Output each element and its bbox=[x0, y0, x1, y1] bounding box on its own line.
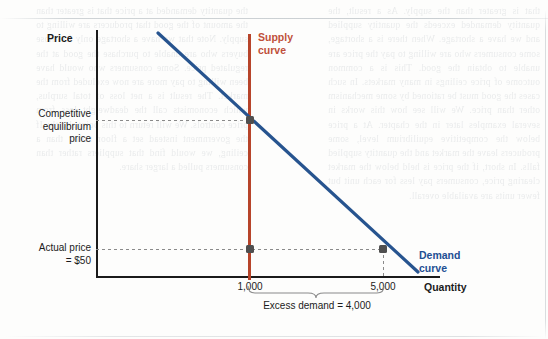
y-axis-title: Price bbox=[47, 32, 73, 44]
demand-curve-label: Demand curve bbox=[419, 249, 460, 274]
competitive-equilibrium-price-label: Competitive equilibrium price bbox=[0, 108, 91, 146]
point-actual-price-supply bbox=[246, 245, 254, 253]
actual-price-label: Actual price = $50 bbox=[0, 242, 91, 267]
y-axis-line bbox=[96, 30, 98, 278]
point-actual-price-demand bbox=[379, 245, 387, 253]
supply-demand-chart: Price Quantity Competitive equilibrium p… bbox=[0, 0, 548, 339]
scanned-textbook-page: that is greater than the supply. As a re… bbox=[0, 0, 548, 339]
excess-demand-annotation: Excess demand = 4,000 bbox=[236, 300, 398, 311]
demand-curve-line bbox=[150, 26, 430, 282]
excess-demand-bracket-icon bbox=[246, 286, 386, 298]
point-competitive-equilibrium bbox=[246, 116, 254, 124]
x-axis-title: Quantity bbox=[424, 281, 467, 293]
